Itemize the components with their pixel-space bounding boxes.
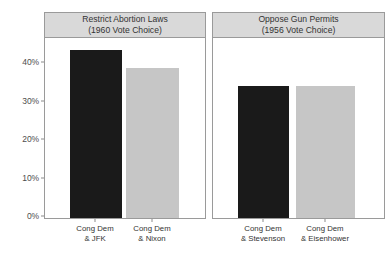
x-axis-left: Cong Dem & JFK Cong Dem & Nixon (44, 219, 206, 255)
x-label-line2-nixon: & Nixon (133, 234, 170, 244)
x-tick-mark-stevenson (263, 219, 264, 222)
x-label-line2-stevenson: & Stevenson (241, 234, 285, 244)
bar-cong-dem-nixon (126, 68, 179, 218)
panel-title-line2-left: (1960 Vote Choice) (88, 25, 162, 36)
x-label-line1-stevenson: Cong Dem (241, 224, 285, 234)
bar-cong-dem-jfk (70, 50, 122, 218)
panel-title-strip-right: Oppose Gun Permits (1956 Vote Choice) (213, 13, 384, 38)
x-label-line2-jfk: & JFK (76, 234, 113, 244)
panel-oppose-gun-permits: Oppose Gun Permits (1956 Vote Choice) (212, 12, 385, 219)
x-tick-mark-nixon (152, 219, 153, 222)
panel-title-line1-right: Oppose Gun Permits (258, 14, 338, 25)
x-label-cong-dem-nixon: Cong Dem & Nixon (133, 224, 170, 244)
y-tick-label-0: 0% (27, 211, 39, 221)
x-label-cong-dem-jfk: Cong Dem & JFK (76, 224, 113, 244)
bar-cong-dem-stevenson (238, 86, 289, 218)
bar-cong-dem-eisenhower (296, 86, 355, 218)
bar-chart-figure: 40% 30% 20% 10% 0% Restrict Abortion Law… (0, 0, 391, 258)
y-tick-label-30: 30% (22, 96, 39, 106)
y-tick-label-20: 20% (22, 134, 39, 144)
plot-area-right (213, 38, 384, 218)
panel-title-strip-left: Restrict Abortion Laws (1960 Vote Choice… (45, 13, 205, 38)
panel-title-line1-left: Restrict Abortion Laws (82, 14, 168, 25)
x-axis-right: Cong Dem & Stevenson Cong Dem & Eisenhow… (212, 219, 385, 255)
y-tick-label-10: 10% (22, 173, 39, 183)
x-label-line1-jfk: Cong Dem (76, 224, 113, 234)
x-label-line2-eisenhower: & Eisenhower (301, 234, 349, 244)
x-label-cong-dem-eisenhower: Cong Dem & Eisenhower (301, 224, 349, 244)
x-tick-mark-jfk (95, 219, 96, 222)
panel-title-line2-right: (1956 Vote Choice) (262, 25, 336, 36)
x-label-cong-dem-stevenson: Cong Dem & Stevenson (241, 224, 285, 244)
y-tick-label-40: 40% (22, 57, 39, 67)
x-tick-mark-eisenhower (325, 219, 326, 222)
x-label-line1-eisenhower: Cong Dem (301, 224, 349, 234)
panel-restrict-abortion-laws: Restrict Abortion Laws (1960 Vote Choice… (44, 12, 206, 219)
plot-area-left (45, 38, 205, 218)
y-axis: 40% 30% 20% 10% 0% (0, 40, 44, 222)
x-label-line1-nixon: Cong Dem (133, 224, 170, 234)
